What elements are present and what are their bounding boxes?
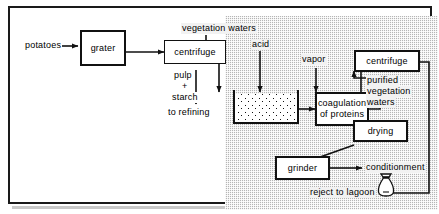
label-purified-vegetation-waters-line-1: purified <box>366 75 399 86</box>
label-acid: acid <box>251 39 270 50</box>
label-potatoes: potatoes <box>24 40 62 51</box>
box-coagulation-line-1: coagulation <box>318 98 366 109</box>
label-vegetation-waters: vegetation waters <box>181 23 257 34</box>
label-plus: + <box>181 81 188 92</box>
box-drying-label: drying <box>368 126 394 137</box>
label-to-refining: to refining <box>167 107 211 118</box>
label-reject-to-lagoon: reject to lagoon <box>309 187 376 198</box>
label-purified-vegetation-waters-line-2: vegetation <box>366 86 412 97</box>
label-starch: starch <box>171 92 199 103</box>
box-grinder-label: grinder <box>288 163 317 174</box>
diagram-frame: grater centrifuge coagulation of protein… <box>8 6 432 204</box>
acidification-tank <box>233 94 299 124</box>
box-centrifuge-secondary-label: centrifuge <box>366 56 408 67</box>
box-coagulation-line-2: of proteins <box>320 109 364 120</box>
box-centrifuge-primary[interactable]: centrifuge <box>164 40 226 64</box>
sack-icon <box>374 172 398 200</box>
box-drying[interactable]: drying <box>353 120 408 142</box>
tank-lip-left <box>233 90 235 96</box>
box-centrifuge-primary-label: centrifuge <box>174 47 216 58</box>
tank-lip-right <box>297 90 299 96</box>
label-pulp: pulp <box>173 70 193 81</box>
box-centrifuge-secondary[interactable]: centrifuge <box>354 50 420 72</box>
process-flow-diagram: grater centrifuge coagulation of protein… <box>0 0 439 214</box>
label-purified-vegetation-waters-line-3: waters <box>366 97 396 108</box>
box-grater[interactable]: grater <box>80 30 126 66</box>
label-conditionment: conditionment <box>365 162 426 173</box>
box-grinder[interactable]: grinder <box>275 156 330 180</box>
label-vapor: vapor <box>301 54 327 65</box>
box-grater-label: grater <box>91 43 116 54</box>
